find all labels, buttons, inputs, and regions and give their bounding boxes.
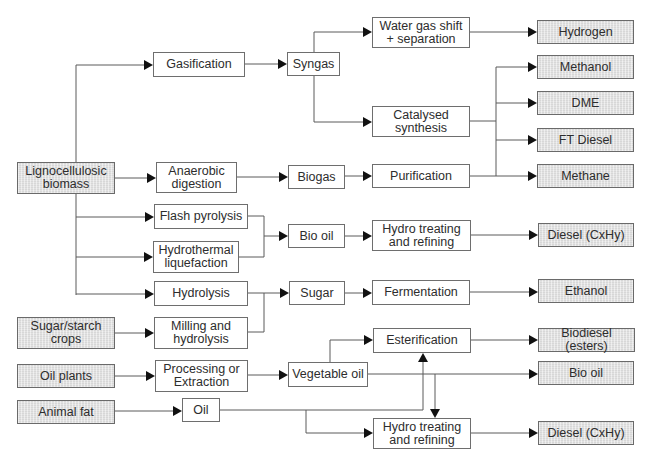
process-hydrolysis: Hydrolysis bbox=[154, 281, 248, 306]
intermediate-sugar: Sugar bbox=[289, 281, 345, 305]
biofuel-pathway-diagram: Lignocellulosic biomass Sugar/starch cro… bbox=[0, 0, 650, 461]
intermediate-biogas: Biogas bbox=[288, 165, 345, 189]
process-flash-pyrolysis: Flash pyrolysis bbox=[154, 204, 248, 229]
product-dme: DME bbox=[537, 91, 634, 115]
product-ft-diesel: FT Diesel bbox=[537, 128, 634, 152]
product-methanol: Methanol bbox=[537, 55, 634, 79]
product-methane: Methane bbox=[537, 164, 634, 188]
feedstock-oil-plants: Oil plants bbox=[17, 364, 115, 388]
upgrade-water-gas-shift: Water gas shift + separation bbox=[372, 17, 470, 48]
product-diesel-cxhy-1: Diesel (CxHy) bbox=[538, 223, 634, 247]
feedstock-sugar-starch-crops: Sugar/starch crops bbox=[17, 317, 115, 349]
feedstock-lignocellulosic-biomass: Lignocellulosic biomass bbox=[17, 162, 115, 194]
process-milling-and-hydrolysis: Milling and hydrolysis bbox=[154, 317, 248, 349]
feedstock-animal-fat: Animal fat bbox=[17, 400, 115, 424]
intermediate-bio-oil: Bio oil bbox=[288, 224, 345, 248]
product-bio-oil: Bio oil bbox=[538, 361, 634, 385]
upgrade-esterification: Esterification bbox=[373, 328, 471, 353]
product-ethanol: Ethanol bbox=[538, 279, 634, 303]
intermediate-syngas: Syngas bbox=[287, 52, 340, 76]
process-anaerobic-digestion: Anaerobic digestion bbox=[156, 162, 237, 193]
upgrade-catalysed-synthesis: Catalysed synthesis bbox=[372, 106, 470, 137]
upgrade-hydro-treating-2: Hydro treating and refining bbox=[373, 418, 471, 449]
upgrade-fermentation: Fermentation bbox=[372, 280, 470, 305]
process-hydrothermal-liquefaction: Hydrothermal liquefaction bbox=[153, 241, 239, 273]
intermediate-oil: Oil bbox=[182, 398, 220, 422]
process-processing-or-extraction: Processing or Extraction bbox=[155, 360, 248, 392]
product-diesel-cxhy-2: Diesel (CxHy) bbox=[538, 421, 634, 445]
product-hydrogen: Hydrogen bbox=[537, 20, 634, 44]
upgrade-hydro-treating-1: Hydro treating and refining bbox=[372, 220, 471, 251]
intermediate-vegetable-oil: Vegetable oil bbox=[288, 362, 368, 387]
product-biodiesel-esters: Biodiesel (esters) bbox=[538, 328, 635, 352]
upgrade-purification: Purification bbox=[372, 164, 470, 188]
process-gasification: Gasification bbox=[153, 52, 245, 77]
